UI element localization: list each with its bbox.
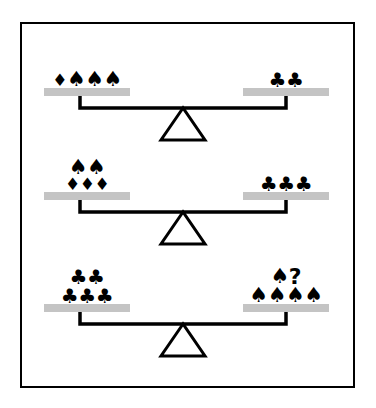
diamond-icon: ♦ (80, 178, 95, 192)
spade-icon: ♠ (268, 287, 286, 304)
spade-icon: ♠ (286, 287, 304, 304)
diamond-icon: ♦ (52, 74, 67, 88)
spade-icon: ♠ (249, 287, 267, 304)
spade-icon: ♠ (85, 71, 103, 88)
balance-scale-1: ♦ ♠ ♠ ♠ ♣ ♣ (22, 36, 353, 148)
fulcrum-triangle-1 (161, 108, 205, 140)
club-icon: ♣ (87, 269, 104, 285)
item-line: ♣ ♣ (70, 269, 105, 285)
item-line: ♠ ♠ ♠ ♠ (249, 287, 322, 304)
pan-contents-right-3: ♠ ? ♠ ♠ ♠ ♠ (243, 254, 329, 304)
pan-contents-right-2: ♣ ♣ ♣ (243, 154, 329, 192)
item-line: ♦ ♦ ♦ (65, 178, 109, 192)
club-icon: ♣ (61, 288, 78, 304)
spade-icon: ♠ (104, 71, 122, 88)
fulcrum-triangle-3 (161, 324, 205, 356)
club-icon: ♣ (260, 176, 277, 192)
pan-contents-right-1: ♣ ♣ (243, 50, 329, 88)
item-line: ♣ ♣ ♣ (260, 176, 312, 192)
club-icon: ♣ (78, 288, 95, 304)
item-line: ♠ ♠ (69, 159, 106, 176)
item-line: ♣ ♣ ♣ (61, 288, 113, 304)
spade-icon: ♠ (87, 159, 105, 176)
pan-contents-left-3: ♣ ♣ ♣ ♣ ♣ (44, 254, 130, 304)
item-line: ♣ ♣ (269, 72, 304, 88)
fulcrum-triangle-2 (161, 212, 205, 244)
pan-contents-left-2: ♠ ♠ ♦ ♦ ♦ (44, 144, 130, 192)
club-icon: ♣ (277, 176, 294, 192)
diamond-icon: ♦ (94, 178, 109, 192)
club-icon: ♣ (70, 269, 87, 285)
balance-scale-2: ♠ ♠ ♦ ♦ ♦ ♣ ♣ ♣ (22, 140, 353, 252)
balance-scale-3: ♣ ♣ ♣ ♣ ♣ ♠ ? ♠ ♠ ♠ ♠ (22, 252, 353, 364)
spade-icon: ♠ (69, 159, 87, 176)
spade-icon: ♠ (304, 287, 322, 304)
puzzle-frame: ♦ ♠ ♠ ♠ ♣ ♣ ♠ ♠ ♦ ♦ (20, 22, 355, 388)
spade-icon: ♠ (67, 71, 85, 88)
club-icon: ♣ (295, 176, 312, 192)
diamond-icon: ♦ (65, 178, 80, 192)
club-icon: ♣ (269, 72, 286, 88)
club-icon: ♣ (286, 72, 303, 88)
club-icon: ♣ (96, 288, 113, 304)
item-line: ♦ ♠ ♠ ♠ (52, 71, 122, 88)
pan-contents-left-1: ♦ ♠ ♠ ♠ (44, 50, 130, 88)
